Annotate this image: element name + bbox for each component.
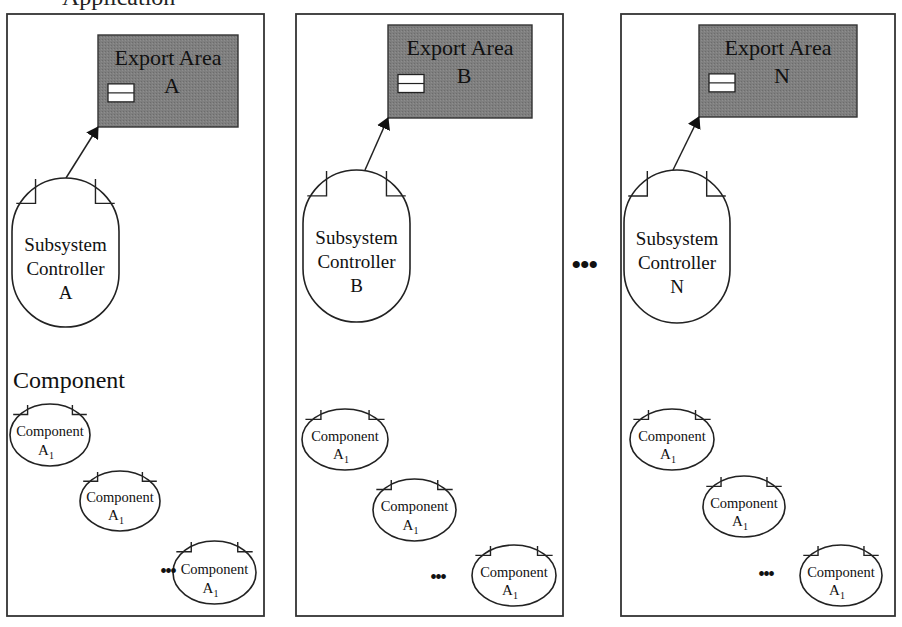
register-icon: [398, 75, 424, 93]
component-section-label: Component: [13, 367, 125, 393]
export-area-label: Export Area: [407, 35, 514, 60]
component-label: Component: [807, 564, 875, 580]
component-node: ComponentA1: [10, 404, 90, 466]
more-components-ellipsis: •••: [160, 560, 176, 582]
component-node: ComponentA1: [373, 479, 456, 541]
middle-ellipsis: •••: [571, 248, 597, 281]
component-node: ComponentA1: [80, 471, 160, 531]
export-arrow: [673, 117, 699, 170]
controller-label: Subsystem: [24, 234, 107, 255]
component-node: ComponentA1: [472, 545, 556, 606]
component-node: ComponentA1: [173, 541, 256, 604]
component-label: Component: [86, 489, 154, 505]
register-icon: [709, 74, 735, 92]
controller-label: B: [350, 275, 363, 296]
subsystem-controller-a: SubsystemControllerA: [12, 178, 119, 327]
register-icon: [108, 84, 134, 102]
component-node: ComponentA1: [800, 545, 882, 606]
controller-label: Controller: [317, 251, 396, 272]
component-label: Component: [638, 428, 706, 444]
export-arrow: [66, 127, 98, 178]
subsystem-panel-b: Export AreaBSubsystemControllerBComponen…: [296, 14, 563, 616]
controller-label: Subsystem: [636, 228, 719, 249]
export-area-label: Export Area: [115, 45, 222, 70]
controller-label: Controller: [638, 252, 717, 273]
component-label: Component: [480, 564, 548, 580]
export-area-b: Export AreaB: [388, 25, 532, 118]
subsystem-panel-n: Export AreaNSubsystemControllerNComponen…: [621, 14, 895, 616]
component-label: Component: [710, 495, 778, 511]
export-area-a: Export AreaA: [98, 35, 238, 127]
component-label: Component: [181, 561, 249, 577]
component-node: ComponentA1: [703, 476, 785, 537]
controller-label: Controller: [26, 258, 105, 279]
export-area-id: N: [774, 63, 790, 88]
controller-label: Subsystem: [315, 227, 398, 248]
subsystem-panel-a: Export AreaASubsystemControllerAComponen…: [7, 14, 264, 616]
component-label: Component: [311, 428, 379, 444]
subsystem-controller-n: SubsystemControllerN: [624, 170, 730, 323]
subsystem-controller-b: SubsystemControllerB: [303, 170, 410, 322]
component-node: ComponentA1: [630, 409, 714, 470]
export-area-label: Export Area: [725, 35, 832, 60]
more-components-ellipsis: •••: [758, 563, 774, 585]
component-node: ComponentA1: [302, 409, 388, 470]
export-area-id: A: [164, 73, 180, 98]
export-area-n: Export AreaN: [699, 25, 857, 117]
component-label: Component: [16, 423, 84, 439]
controller-label: N: [670, 276, 684, 297]
more-components-ellipsis: •••: [430, 566, 446, 588]
export-arrow: [365, 118, 388, 170]
component-label: Component: [381, 498, 449, 514]
controller-label: A: [59, 282, 73, 303]
subsystem-architecture-diagram: Export AreaASubsystemControllerAComponen…: [0, 0, 902, 627]
export-area-id: B: [457, 63, 472, 88]
